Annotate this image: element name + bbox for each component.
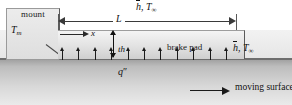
length-arrow-right-icon [229, 17, 236, 25]
heat-flux-arrow [95, 50, 96, 60]
convection-top-label: h, T∞ [136, 1, 157, 14]
heat-flux-arrow [144, 50, 145, 60]
heat-flux-arrow [210, 50, 211, 60]
length-dimension-line [62, 21, 234, 22]
h-bar-symbol-right: h [233, 42, 238, 53]
x-axis-label: x [91, 28, 95, 38]
length-tick-right [236, 14, 237, 30]
heat-flux-arrow [226, 50, 227, 60]
heat-flux-arrow-head-icon [208, 47, 212, 51]
heat-flux-arrow-head-icon [175, 47, 179, 51]
heat-flux-arrow-head-icon [60, 47, 64, 51]
thickness-label: th [118, 44, 125, 54]
h-bar-symbol-top: h [136, 1, 141, 12]
length-arrow-left-icon [58, 17, 65, 25]
heat-flux-arrow [62, 50, 63, 60]
heat-flux-arrow [193, 50, 194, 60]
heat-flux-arrow [128, 50, 129, 60]
heat-flux-arrow-head-icon [158, 47, 162, 51]
brake-pad-label: brake pad [167, 42, 202, 52]
length-label: L [113, 13, 125, 24]
thickness-arrow-up-icon [110, 30, 116, 35]
mount-label: mount [11, 9, 55, 19]
heat-flux-arrow-head-icon [109, 47, 113, 51]
mount-temperature-label: Tm [11, 24, 41, 37]
heat-flux-arrow-head-icon [142, 47, 146, 51]
x-axis-arrow-icon [83, 31, 89, 37]
moving-surface-arrow-line [190, 90, 224, 91]
heat-flux-arrow [111, 50, 112, 60]
convection-right-label: h, T∞ [233, 42, 254, 55]
heat-flux-arrow [177, 50, 178, 60]
moving-surface-label: moving surface [235, 82, 292, 92]
heat-flux-label: q″ [118, 66, 127, 77]
heat-flux-arrow [78, 50, 79, 60]
heat-flux-primes: ″ [123, 66, 127, 77]
moving-surface-arrow-icon [222, 87, 230, 95]
t-infinity-subscript-top: ∞ [152, 6, 157, 14]
heat-flux-arrow-head-icon [224, 47, 228, 51]
t-infinity-subscript-right: ∞ [249, 47, 254, 55]
mount-temperature-subscript: m [17, 29, 22, 37]
heat-flux-arrow-head-icon [93, 47, 97, 51]
heat-flux-arrow [160, 50, 161, 60]
brake-pad-thermal-diagram: mount Tm brake pad L x h, T∞ h, T∞ th q″… [0, 0, 292, 105]
x-axis-line [60, 34, 84, 35]
heat-flux-arrow-head-icon [76, 47, 80, 51]
heat-flux-arrow-head-icon [126, 47, 130, 51]
heat-flux-arrow-head-icon [191, 47, 195, 51]
